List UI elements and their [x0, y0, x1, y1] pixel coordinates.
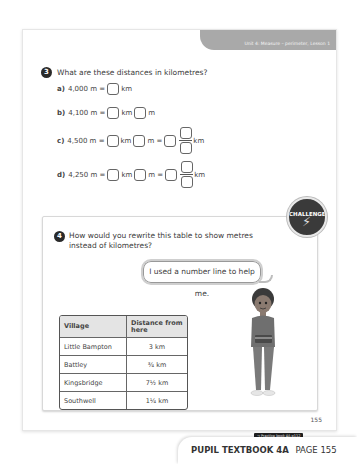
speech-bubble-tail — [259, 275, 273, 283]
fraction-boxes — [180, 161, 193, 188]
numerator-box[interactable] — [181, 161, 193, 173]
unit-header: Unit 4: Measure – perimeter, Lesson 1 — [200, 30, 336, 50]
unit-text: m = — [148, 171, 163, 179]
village-cell: Kingsbridge — [60, 374, 127, 392]
village-cell: Little Bampton — [60, 338, 127, 356]
village-cell: Battley — [60, 356, 127, 374]
lightning-icon: ⚡ — [302, 215, 311, 228]
challenge-badge: CHALLENGE ⚡ — [287, 197, 327, 237]
unit-text: km — [194, 171, 205, 179]
table-header-row: Village Distance from here — [60, 316, 187, 338]
answer-box[interactable] — [107, 169, 119, 181]
textbook-title: PUPIL TEXTBOOK 4A — [191, 445, 289, 455]
part-expression: 4,250 m = — [68, 171, 105, 179]
numerator-box[interactable] — [180, 127, 192, 139]
table-row: Little Bampton 3 km — [60, 338, 187, 356]
header-distance: Distance from here — [127, 316, 187, 338]
denominator-box[interactable] — [181, 176, 193, 188]
part-expression: 4,000 m = — [68, 85, 105, 93]
answer-box[interactable] — [107, 83, 119, 95]
textbook-page: PAGE 155 — [296, 445, 337, 455]
part-label: a) — [57, 85, 65, 93]
question-3-number: 3 — [41, 67, 52, 78]
part-expression: 4,500 m = — [67, 137, 104, 145]
unit-text: km — [121, 85, 132, 93]
answer-box[interactable] — [134, 169, 146, 181]
part-label: b) — [57, 109, 65, 117]
unit-text: m — [148, 109, 155, 117]
table-row: Southwell 1¼ km — [60, 392, 187, 409]
village-cell: Southwell — [60, 392, 127, 409]
distance-table: Village Distance from here Little Bampto… — [59, 315, 188, 410]
answer-box[interactable] — [107, 135, 119, 147]
answer-box[interactable] — [133, 135, 145, 147]
q3-part-b: b) 4,100 m = km m — [57, 107, 155, 119]
distance-cell: ¾ km — [127, 356, 187, 374]
unit-text: m = — [147, 137, 162, 145]
unit-text: km — [121, 171, 132, 179]
unit-text: km — [121, 109, 132, 117]
whole-number-box[interactable] — [165, 169, 177, 181]
q3-part-c: c) 4,500 m = km m = km — [57, 127, 204, 154]
answer-box[interactable] — [107, 107, 119, 119]
textbook-page: Unit 4: Measure – perimeter, Lesson 1 3 … — [22, 29, 337, 431]
fraction-bar — [180, 174, 193, 175]
fraction-bar — [179, 140, 192, 141]
question-4-prompt-line1: How would you rewrite this table to show… — [69, 231, 253, 241]
question-3-prompt: What are these distances in kilometres? — [57, 68, 208, 78]
distance-cell: 1¼ km — [127, 392, 187, 409]
fraction-boxes — [179, 127, 192, 154]
q3-part-d: d) 4,250 m = km m = km — [57, 161, 205, 188]
textbook-page-label: PUPIL TEXTBOOK 4A PAGE 155 — [178, 437, 357, 464]
unit-text: km — [193, 137, 204, 145]
table-row: Battley ¾ km — [60, 356, 187, 374]
table-row: Kingsbridge 7½ km — [60, 374, 187, 392]
q3-part-a: a) 4,000 m = km — [57, 83, 132, 95]
question-4-prompt-line2: instead of kilometres? — [69, 241, 152, 251]
unit-text: km — [121, 137, 132, 145]
boy-character-illustration — [239, 285, 289, 401]
speech-bubble: I used a number line to help me. — [141, 259, 263, 285]
question-4-number: 4 — [54, 231, 65, 242]
distance-cell: 3 km — [127, 338, 187, 356]
header-village: Village — [60, 316, 127, 338]
answer-box[interactable] — [134, 107, 146, 119]
part-label: d) — [57, 171, 65, 179]
part-label: c) — [57, 137, 64, 145]
denominator-box[interactable] — [180, 142, 192, 154]
part-expression: 4,100 m = — [68, 109, 105, 117]
page-number: 155 — [311, 416, 322, 423]
distance-cell: 7½ km — [127, 374, 187, 392]
challenge-card: CHALLENGE ⚡ 4 How would you rewrite this… — [42, 216, 318, 411]
whole-number-box[interactable] — [164, 135, 176, 147]
